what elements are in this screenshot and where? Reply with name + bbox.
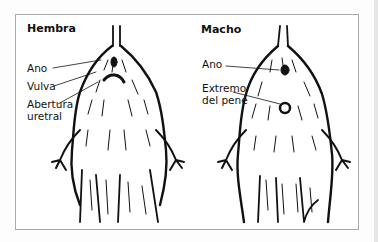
label-uretral: uretral bbox=[27, 110, 62, 122]
label-vulva: Vulva bbox=[27, 80, 56, 92]
panel-title-male: Macho bbox=[201, 23, 241, 36]
label-extremo: Extremo bbox=[202, 82, 246, 94]
label-ano-female: Ano bbox=[27, 62, 47, 74]
panel-title-female: Hembra bbox=[27, 22, 76, 35]
label-abertura: Abertura bbox=[27, 98, 73, 110]
label-del-pene: del pene bbox=[202, 94, 248, 106]
label-ano-male: Ano bbox=[202, 58, 222, 70]
